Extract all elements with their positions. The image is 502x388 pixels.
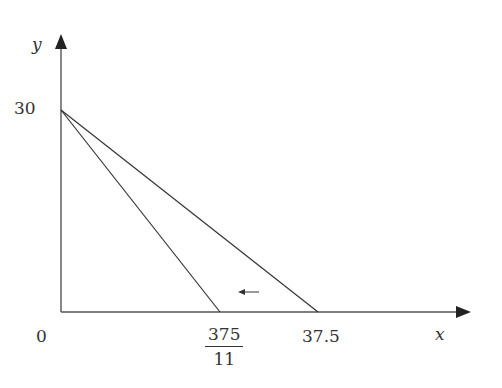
x-axis-arrowhead-icon [456, 306, 471, 318]
fraction-denominator: 11 [213, 347, 235, 368]
origin-label: 0 [36, 328, 47, 345]
line-outer [61, 110, 318, 312]
x-tick-375-over-11: 375 11 [205, 326, 243, 368]
x-axis-label: x [435, 326, 445, 343]
y-tick-30: 30 [14, 100, 36, 117]
lp-constraint-diagram [0, 0, 502, 388]
y-axis-label: y [32, 36, 42, 53]
x-tick-37-5: 37.5 [302, 328, 340, 345]
shift-left-arrowhead-icon [238, 289, 245, 295]
y-axis-arrowhead-icon [55, 34, 67, 49]
fraction-numerator: 375 [205, 326, 243, 347]
line-inner [61, 110, 220, 312]
